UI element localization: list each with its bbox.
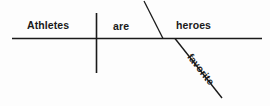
diagram-word-predicate-nominative: heroes xyxy=(176,20,211,31)
predicate-nominative-slant-line xyxy=(144,1,163,39)
diagram-line-art xyxy=(0,0,270,106)
diagram-word-subject: Athletes xyxy=(27,20,69,31)
diagram-word-verb: are xyxy=(113,21,129,32)
sentence-diagram-canvas: Athletes are heroes favorite xyxy=(0,0,270,106)
